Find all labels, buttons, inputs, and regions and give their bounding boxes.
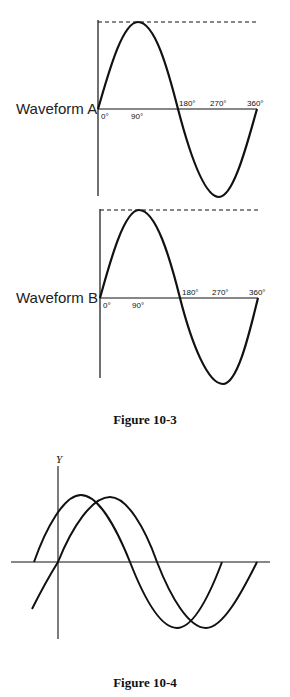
waveform-a-tick-360: 360° bbox=[247, 99, 264, 108]
waveform-a-tick-0: 0° bbox=[101, 112, 109, 121]
figure-10-4-y-axis-label: Y bbox=[56, 453, 62, 465]
waveform-a-plot bbox=[98, 20, 258, 197]
figure-10-4-plot bbox=[11, 466, 270, 639]
waveform-b-tick-90: 90° bbox=[132, 301, 144, 310]
waveform-b-tick-270: 270° bbox=[212, 288, 229, 297]
waveform-a-tick-180: 180° bbox=[179, 99, 196, 108]
waveform-b-curve bbox=[100, 210, 258, 384]
waveform-b-tick-360: 360° bbox=[249, 288, 266, 297]
waveform-a-tick-270: 270° bbox=[210, 99, 227, 108]
waveform-b-tick-0: 0° bbox=[103, 301, 111, 310]
waveform-b-plot bbox=[100, 209, 259, 384]
waveform-a-label: Waveform A bbox=[16, 100, 97, 117]
waveform-b-label: Waveform B bbox=[16, 289, 98, 306]
waveform-a-ticks: 0° 90° 180° 270° 360° bbox=[101, 99, 264, 121]
figure-10-4-caption: Figure 10-4 bbox=[0, 675, 290, 691]
waveform-a-tick-90: 90° bbox=[131, 112, 143, 121]
waveform-b-ticks: 0° 90° 180° 270° 360° bbox=[103, 288, 266, 310]
figure-10-3-caption: Figure 10-3 bbox=[0, 412, 290, 428]
waveform-b-tick-180: 180° bbox=[182, 288, 199, 297]
